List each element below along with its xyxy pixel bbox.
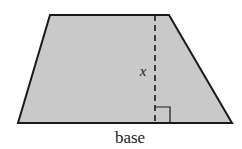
- base-label: base: [115, 128, 145, 147]
- trapezoid-shape: [18, 15, 232, 123]
- height-label: x: [139, 63, 147, 79]
- trapezoid-diagram: x base: [0, 0, 242, 149]
